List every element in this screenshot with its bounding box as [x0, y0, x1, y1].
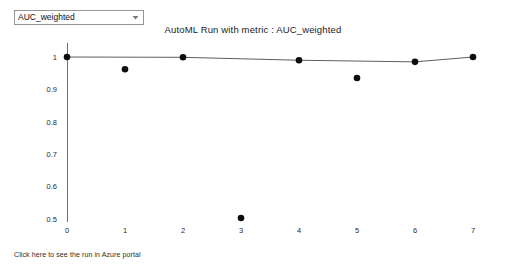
x-tick-label: 0 [65, 226, 69, 235]
data-point [412, 59, 419, 66]
data-point [296, 57, 303, 64]
metric-selector-container: AUC_weighted [14, 10, 144, 25]
metric-select[interactable]: AUC_weighted [14, 10, 144, 25]
y-tick-label: 0.8 [47, 118, 57, 127]
x-tick-label: 4 [297, 226, 301, 235]
chart-svg: 0.50.60.70.80.91 01234567 [0, 38, 506, 244]
azure-portal-link[interactable]: Click here to see the run in Azure porta… [14, 251, 141, 258]
chevron-down-icon[interactable] [130, 11, 141, 24]
y-tick-label: 0.7 [47, 150, 57, 159]
data-point [180, 54, 187, 61]
x-tick-label: 5 [355, 226, 359, 235]
y-tick-label: 0.6 [47, 182, 57, 191]
x-tick-label: 3 [239, 226, 243, 235]
y-tick-label: 1 [53, 53, 57, 62]
data-point [354, 75, 361, 82]
x-tick-label: 1 [123, 226, 127, 235]
data-point [238, 215, 245, 222]
data-point [122, 66, 129, 73]
x-axis-tick-labels: 01234567 [65, 226, 475, 235]
x-tick-label: 7 [471, 226, 475, 235]
data-point-markers [64, 54, 477, 222]
metric-select-value: AUC_weighted [18, 11, 75, 24]
data-point [64, 54, 71, 61]
y-tick-label: 0.9 [47, 85, 57, 94]
x-tick-label: 2 [181, 226, 185, 235]
data-point [470, 54, 477, 61]
chart-plot-area: 0.50.60.70.80.91 01234567 [0, 38, 506, 244]
chart-title: AutoML Run with metric : AUC_weighted [0, 24, 506, 35]
x-tick-label: 6 [413, 226, 417, 235]
y-axis-tick-labels: 0.50.60.70.80.91 [47, 53, 57, 224]
y-tick-label: 0.5 [47, 215, 57, 224]
